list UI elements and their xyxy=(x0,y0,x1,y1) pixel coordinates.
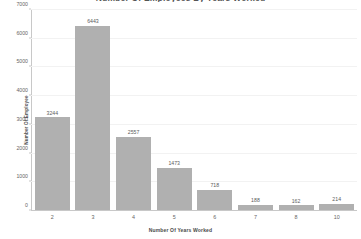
x-tick-label: 2 xyxy=(32,214,73,220)
x-tick-label: 6 xyxy=(195,214,236,220)
bar-value-label: 188 xyxy=(251,197,260,203)
y-tick-mark xyxy=(29,152,31,153)
bar-slot: 6443 xyxy=(73,10,114,210)
y-tick-mark xyxy=(29,9,31,10)
y-tick-label: 1000 xyxy=(16,173,28,179)
bar-value-label: 6443 xyxy=(87,18,99,24)
bar[interactable]: 188 xyxy=(238,205,273,210)
bar-slot: 188 xyxy=(235,10,276,210)
x-axis-label: Number Of Years Worked xyxy=(0,227,361,233)
bar-chart: Number Of Employees By Years Worked Numb… xyxy=(0,0,361,239)
bar[interactable]: 6443 xyxy=(75,26,110,210)
bar-slot: 162 xyxy=(276,10,317,210)
y-tick-label: 5000 xyxy=(16,58,28,64)
y-tick-label: 0 xyxy=(25,202,28,208)
y-tick-mark xyxy=(29,123,31,124)
y-tick-label: 4000 xyxy=(16,87,28,93)
y-tick-label: 3000 xyxy=(16,116,28,122)
x-tick-label: 8 xyxy=(276,214,317,220)
gridline xyxy=(31,210,357,211)
bar-slot: 718 xyxy=(195,10,236,210)
y-tick-mark xyxy=(29,95,31,96)
bar-slot: 2557 xyxy=(113,10,154,210)
plot-area: 01000200030004000500060007000 3244644325… xyxy=(31,10,357,211)
bar[interactable]: 162 xyxy=(279,205,314,210)
x-tick-label: 7 xyxy=(235,214,276,220)
bar-slot: 3244 xyxy=(32,10,73,210)
bar-value-label: 1473 xyxy=(168,160,180,166)
bar[interactable]: 3244 xyxy=(35,117,70,210)
bar[interactable]: 1473 xyxy=(157,168,192,210)
y-tick-mark xyxy=(29,37,31,38)
bar[interactable]: 2557 xyxy=(116,137,151,210)
x-tick-label: 4 xyxy=(113,214,154,220)
bar[interactable]: 718 xyxy=(197,190,232,211)
y-tick-label: 6000 xyxy=(16,30,28,36)
y-tick-label: 7000 xyxy=(16,1,28,7)
bars-layer: 3244644325571473718188162214 xyxy=(32,10,357,210)
y-tick-mark xyxy=(29,181,31,182)
bar-slot: 214 xyxy=(316,10,357,210)
x-tick-label: 3 xyxy=(73,214,114,220)
bar-slot: 1473 xyxy=(154,10,195,210)
chart-title: Number Of Employees By Years Worked xyxy=(0,0,361,2)
y-tick-label: 2000 xyxy=(16,145,28,151)
bar-value-label: 2557 xyxy=(128,129,140,135)
y-tick-mark xyxy=(29,66,31,67)
bar-value-label: 718 xyxy=(210,182,219,188)
bar-value-label: 3244 xyxy=(47,110,59,116)
bar[interactable]: 214 xyxy=(319,204,354,210)
x-tick-label: 10 xyxy=(316,214,357,220)
y-tick-mark xyxy=(29,210,31,211)
bar-value-label: 214 xyxy=(332,196,341,202)
x-axis-ticks: 234567810 xyxy=(32,214,357,220)
x-tick-label: 5 xyxy=(154,214,195,220)
bar-value-label: 162 xyxy=(292,198,301,204)
